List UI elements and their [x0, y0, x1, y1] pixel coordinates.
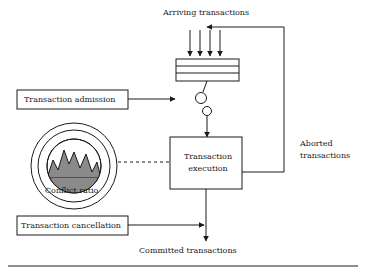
transaction-execution-box [170, 137, 242, 189]
transaction-execution-label-line1: Transaction [178, 152, 238, 161]
conflict-ratio-gauge [31, 123, 117, 209]
drop-path [196, 81, 212, 137]
diagram-canvas: Arriving transactions Transaction admiss… [0, 0, 366, 277]
conflict-ratio-label: Conflict ratio [45, 186, 98, 195]
transaction-admission-label: Transaction admission [24, 95, 116, 104]
queue-buffer [176, 59, 239, 81]
arriving-transactions-label: Arriving transactions [163, 8, 249, 17]
committed-transactions-label: Committed transactions [139, 246, 237, 255]
transaction-execution-label-line2: execution [178, 164, 238, 173]
aborted-transactions-label-line1: Aborted [300, 139, 333, 148]
transaction-cancellation-label: Transaction cancellation [21, 221, 121, 230]
aborted-transactions-label-line2: transactions [300, 151, 350, 160]
arriving-arrows [190, 30, 220, 56]
